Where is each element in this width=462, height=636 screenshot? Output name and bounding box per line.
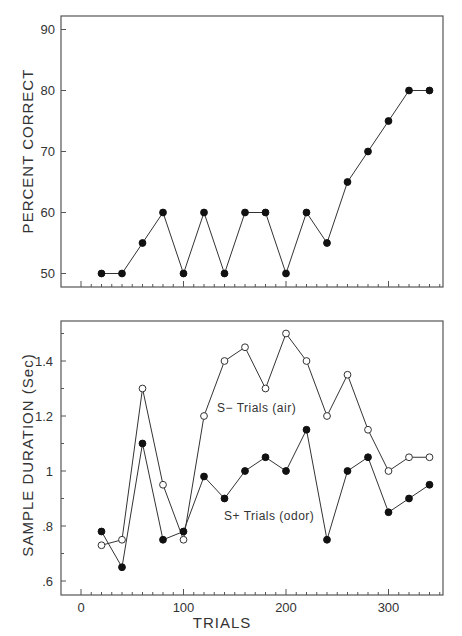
percent-correct-series <box>98 87 433 277</box>
data-point <box>365 148 372 155</box>
data-point <box>385 509 392 516</box>
data-point <box>139 385 146 392</box>
data-point <box>119 564 126 571</box>
percent-correct-chart: 5060708090 PERCENT CORRECT <box>19 16 443 287</box>
y-tick-label: 50 <box>41 266 55 281</box>
data-point <box>98 270 105 277</box>
bottom-y-axis-label: SAMPLE DURATION (Sec) <box>19 353 36 556</box>
s-plus-odor-annotation: S+ Trials (odor) <box>224 509 314 523</box>
data-point <box>201 473 208 480</box>
data-point <box>406 495 413 502</box>
y-tick-label: 70 <box>41 144 55 159</box>
data-point <box>303 209 310 216</box>
top-x-axis <box>81 281 440 287</box>
data-point <box>139 240 146 247</box>
x-tick-label: 200 <box>275 600 297 615</box>
data-point <box>324 536 331 543</box>
data-point <box>303 426 310 433</box>
y-tick-label: 80 <box>41 83 55 98</box>
data-point <box>160 209 167 216</box>
figure: 5060708090 PERCENT CORRECT .6.811.21.4 0… <box>0 0 462 636</box>
data-point <box>180 528 187 535</box>
x-tick-label: 100 <box>173 600 195 615</box>
y-tick-label: 90 <box>41 22 55 37</box>
data-point <box>180 270 187 277</box>
sample-duration-chart: .6.811.21.4 0100200300 S− Trials (air) S… <box>19 321 443 631</box>
data-point <box>385 468 392 475</box>
data-point <box>426 87 433 94</box>
top-y-axis-label: PERCENT CORRECT <box>19 69 36 234</box>
s-plus-odor-series <box>98 426 433 570</box>
data-point <box>242 468 249 475</box>
y-tick-label: 1.2 <box>35 409 53 424</box>
top-plot-frame <box>61 16 443 287</box>
data-point <box>139 440 146 447</box>
data-point <box>262 209 269 216</box>
series-line <box>102 91 430 274</box>
data-point <box>365 426 372 433</box>
data-point <box>283 468 290 475</box>
x-tick-label: 0 <box>77 600 84 615</box>
data-point <box>221 358 228 365</box>
data-point <box>262 454 269 461</box>
data-point <box>98 542 105 549</box>
data-point <box>262 385 269 392</box>
bottom-x-axis-label: TRIALS <box>193 614 252 631</box>
y-tick-label: .6 <box>42 574 53 589</box>
series-line <box>102 430 430 568</box>
data-point <box>426 481 433 488</box>
data-point <box>426 454 433 461</box>
data-point <box>283 330 290 337</box>
y-tick-label: 1.4 <box>35 354 53 369</box>
data-point <box>365 454 372 461</box>
bottom-x-axis: 0100200300 <box>77 589 439 615</box>
data-point <box>344 371 351 378</box>
y-tick-label: 1 <box>46 464 53 479</box>
data-point <box>406 454 413 461</box>
data-point <box>201 209 208 216</box>
x-tick-label: 300 <box>378 600 400 615</box>
data-point <box>119 270 126 277</box>
data-point <box>201 413 208 420</box>
data-point <box>119 536 126 543</box>
data-point <box>160 481 167 488</box>
top-y-axis: 5060708090 <box>41 22 66 281</box>
data-point <box>406 87 413 94</box>
data-point <box>180 536 187 543</box>
data-point <box>324 240 331 247</box>
data-point <box>160 536 167 543</box>
y-tick-label: 60 <box>41 205 55 220</box>
data-point <box>98 528 105 535</box>
s-minus-air-annotation: S− Trials (air) <box>217 401 296 415</box>
data-point <box>242 344 249 351</box>
data-point <box>242 209 249 216</box>
data-point <box>221 495 228 502</box>
data-point <box>303 358 310 365</box>
data-point <box>344 468 351 475</box>
data-point <box>283 270 290 277</box>
data-point <box>385 118 392 125</box>
data-point <box>324 413 331 420</box>
data-point <box>344 179 351 186</box>
data-point <box>221 270 228 277</box>
y-tick-label: .8 <box>42 519 53 534</box>
